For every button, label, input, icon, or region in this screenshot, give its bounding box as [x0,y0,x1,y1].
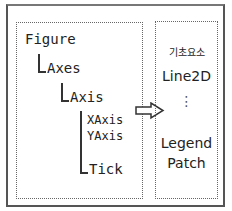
yaxis-label: YAxis [87,129,123,143]
axes-label: Axes [47,60,81,76]
xaxis-label: XAxis [87,113,123,127]
connector-axes-axis-vertical [61,83,63,101]
connector-figure-axes-vertical [38,54,40,72]
connector-axes-axis-horizontal [61,100,69,102]
figure-label: Figure [25,31,76,47]
connector-axis-tick-vertical [80,111,82,173]
ellipsis-icon: ⋮ [155,93,218,109]
connector-axis-tick-horizontal [80,172,88,174]
axis-label: Axis [70,89,104,105]
connector-figure-axes-horizontal [38,71,46,73]
patch-label: Patch [155,155,218,171]
tick-label: Tick [89,161,123,177]
legend-label: Legend [155,135,218,151]
line2d-label: Line2D [155,68,218,84]
primitives-title: 기초요소 [155,44,218,59]
